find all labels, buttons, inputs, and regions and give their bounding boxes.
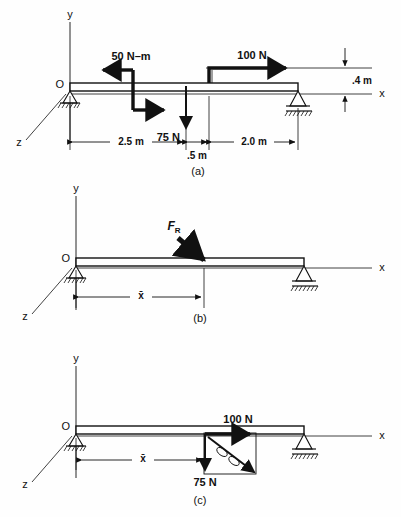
dim-04m-label-a: .4 m (352, 75, 372, 86)
couple-50-label-a: 50 N–m (111, 50, 150, 62)
force-75-label-a: 75 N (157, 131, 180, 143)
dim-xbar-label-c: x̄ (140, 453, 146, 464)
caption-a: (a) (191, 165, 204, 177)
dim-20m-label-a: 2.0 m (241, 136, 267, 147)
caption-c: (c) (194, 494, 207, 506)
component-75-label-c: 75 N (193, 476, 216, 488)
beam-a (70, 83, 298, 91)
y-axis-label-b: y (73, 182, 79, 194)
dim-xbar-label-b: x̄ (138, 290, 144, 301)
origin-label-c: O (61, 420, 70, 432)
force-100-label-a: 100 N (237, 49, 266, 61)
origin-label-a: O (55, 78, 64, 90)
x-axis-label-a: x (379, 87, 385, 99)
figure-beam-resultant: y z x O (0, 0, 401, 517)
caption-b: (b) (193, 312, 206, 324)
dim-25m-label-a: 2.5 m (118, 136, 144, 147)
origin-label-b: O (61, 252, 70, 264)
z-axis-label-a: z (16, 136, 22, 148)
dim-05m-label-a: .5 m (187, 150, 207, 161)
z-axis-label-b: z (22, 310, 28, 322)
component-100-label-c: 100 N (223, 413, 252, 425)
y-axis-label-c: y (73, 352, 79, 364)
beam-b (76, 258, 304, 266)
x-axis-label-b: x (379, 261, 385, 273)
x-axis-label-c: x (379, 429, 385, 441)
beam-c (76, 426, 304, 434)
y-axis-label-a: y (67, 8, 73, 20)
z-axis-label-c: z (22, 478, 28, 490)
